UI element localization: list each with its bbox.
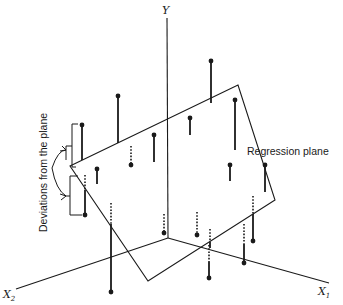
data-point [116,94,121,99]
points-above-plane [80,59,268,192]
data-point [162,231,167,236]
data-point [188,116,193,121]
x1-axis [168,238,329,283]
diagram-svg: Y X2 X1 Regression plane Deviations from… [0,0,343,305]
data-point [80,123,85,128]
x1-axis-label: X1 [317,285,330,300]
regression-plane-diagram: Y X2 X1 Regression plane Deviations from… [0,0,343,305]
x2-axis-label: X2 [2,288,16,303]
data-point [263,163,268,168]
deviations-label: Deviations from the plane [37,113,49,232]
data-point [129,163,134,168]
data-point [109,290,114,295]
y-axis [167,18,168,238]
regression-plane-label: Regression plane [247,145,329,157]
data-point [228,163,233,168]
data-point [242,261,247,266]
data-point [209,59,214,64]
x2-axis [16,238,168,289]
deviation-brackets [52,124,82,215]
y-axis-label: Y [162,4,171,17]
data-point [233,98,238,103]
data-point [251,239,256,244]
data-point [152,133,157,138]
data-point [95,167,100,172]
data-point [207,276,212,281]
data-point [83,213,88,218]
data-point [195,233,200,238]
